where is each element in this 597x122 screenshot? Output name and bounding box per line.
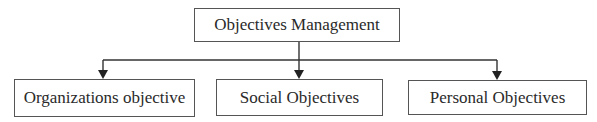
arrowhead-right-icon: [492, 71, 502, 80]
arrowhead-middle-icon: [294, 70, 304, 79]
child-node-organizations-objective: Organizations objective: [14, 79, 195, 117]
child-node-label: Social Objectives: [240, 88, 359, 108]
arrowhead-left-icon: [98, 70, 108, 79]
child-node-social-objectives: Social Objectives: [216, 79, 383, 116]
root-node-objectives-management: Objectives Management: [194, 8, 400, 42]
child-node-label: Personal Objectives: [430, 88, 566, 108]
child-node-label: Organizations objective: [24, 88, 186, 108]
root-node-label: Objectives Management: [214, 15, 380, 35]
child-node-personal-objectives: Personal Objectives: [408, 80, 587, 115]
